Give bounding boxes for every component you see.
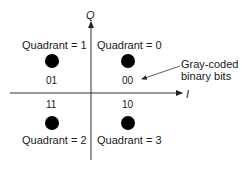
quadrant-1-label: Quadrant = 1 [22,40,87,51]
bits-10: 10 [122,100,133,110]
annotation-line-1: Gray-coded [181,58,238,70]
annotation-line-2: binary bits [181,70,238,82]
constellation-diagram [0,0,242,172]
point-quadrant-2 [45,116,59,130]
bits-01: 01 [46,76,57,86]
bits-00: 00 [122,76,133,86]
point-quadrant-3 [121,116,135,130]
point-quadrant-0 [121,54,135,68]
gray-code-annotation: Gray-coded binary bits [181,58,238,82]
i-axis-label: I [186,89,189,100]
q-axis-label: Q [86,10,95,21]
annotation-arrow [142,66,180,79]
quadrant-3-label: Quadrant = 3 [97,135,162,146]
bits-11: 11 [46,100,56,110]
quadrant-0-label: Quadrant = 0 [97,40,162,51]
quadrant-2-label: Quadrant = 2 [22,135,87,146]
point-quadrant-1 [45,54,59,68]
